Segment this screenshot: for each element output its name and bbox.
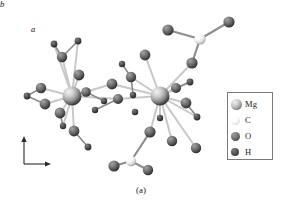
atom-o bbox=[223, 16, 234, 27]
atom-o bbox=[181, 98, 192, 109]
atom-o bbox=[113, 94, 123, 104]
atom-mg bbox=[151, 87, 170, 106]
legend-label-c: C bbox=[245, 116, 251, 125]
atom-o bbox=[171, 83, 181, 93]
figure-caption: (a) bbox=[0, 185, 282, 195]
atom-o bbox=[36, 83, 46, 93]
legend-sphere-c-icon bbox=[231, 116, 240, 125]
atom-h bbox=[119, 61, 125, 67]
axis-a-arrowhead bbox=[45, 161, 51, 166]
atom-c bbox=[194, 33, 205, 44]
legend-sphere-mg-icon bbox=[231, 99, 242, 110]
atom-o bbox=[186, 57, 197, 68]
atom-h bbox=[51, 41, 58, 48]
atom-mg bbox=[63, 87, 82, 106]
legend-sphere-o-icon bbox=[231, 132, 240, 141]
legend-box: Mg C O H bbox=[227, 92, 273, 160]
atom-o bbox=[69, 126, 80, 137]
legend-sphere-h-icon bbox=[231, 148, 239, 156]
axis-b-arrowhead bbox=[21, 136, 26, 142]
atom-o bbox=[57, 52, 67, 62]
atom-h bbox=[24, 93, 31, 100]
atom-o bbox=[162, 24, 173, 35]
atom-h bbox=[187, 79, 194, 86]
atom-o bbox=[144, 126, 155, 137]
legend-label-o: O bbox=[245, 132, 251, 141]
atom-h bbox=[60, 123, 66, 129]
atom-o bbox=[126, 72, 136, 82]
atom-h bbox=[101, 98, 107, 104]
atom-o bbox=[40, 99, 51, 110]
axis-a-label: a bbox=[31, 24, 35, 34]
atom-o bbox=[140, 50, 151, 61]
atom-h bbox=[75, 38, 82, 45]
atom-o bbox=[143, 165, 153, 175]
atom-h bbox=[130, 92, 136, 98]
legend-label-h: H bbox=[245, 148, 251, 157]
atom-o bbox=[108, 160, 119, 171]
atom-h bbox=[85, 144, 92, 151]
legend-item-c: C bbox=[228, 112, 272, 128]
atom-h bbox=[92, 107, 98, 113]
legend-item-h: H bbox=[228, 144, 272, 160]
legend-item-mg: Mg bbox=[228, 96, 272, 112]
figure-canvas: b a Mg C O H (a) bbox=[0, 0, 282, 209]
atom-o bbox=[81, 87, 91, 97]
legend-label-mg: Mg bbox=[245, 100, 257, 109]
atom-o bbox=[55, 108, 66, 119]
atom-h bbox=[157, 115, 163, 121]
axis-indicator bbox=[18, 128, 58, 168]
atom-o bbox=[74, 70, 85, 81]
atom-h bbox=[132, 109, 138, 115]
atom-o bbox=[167, 136, 177, 146]
legend-item-o: O bbox=[228, 128, 272, 144]
atom-o bbox=[191, 143, 201, 153]
axis-b-label: b bbox=[0, 0, 4, 9]
atom-o bbox=[107, 79, 118, 90]
atom-c bbox=[126, 156, 136, 166]
atom-h bbox=[194, 114, 201, 121]
